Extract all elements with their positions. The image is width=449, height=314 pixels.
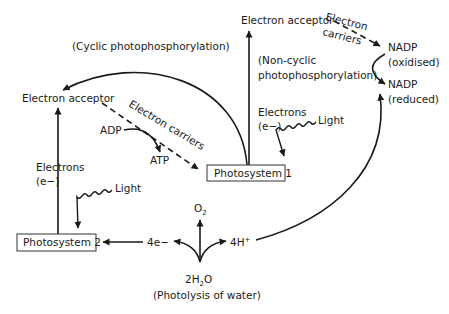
electron-acceptor-left: Electron acceptor	[22, 92, 115, 104]
cyclic-label: (Cyclic photophosphorylation)	[72, 40, 230, 52]
light-wave-ps1-icon	[276, 122, 316, 156]
nadp-reduced-1: NADP	[388, 78, 417, 90]
nadp-oxidised-1: NADP	[388, 41, 417, 53]
light-wave-ps2-icon	[77, 190, 112, 228]
nadp-reduced-2: (reduced)	[388, 93, 439, 105]
4e-label: 4e−	[147, 236, 169, 248]
adp-label: ADP	[100, 124, 122, 136]
electron-acceptor-top: Electron acceptor	[241, 14, 334, 26]
atp-label: ATP	[150, 154, 169, 166]
electrons-ps2-2: (e−)	[36, 175, 59, 187]
noncyclic-label-2: photophosphorylation)	[258, 69, 377, 81]
edge-adp-to-atp	[124, 129, 160, 152]
electrons-ps1-2: (e−)	[258, 120, 281, 132]
carriers-label-left: Electron carriers	[127, 97, 207, 152]
photosynthesis-diagram: Electron acceptor Electron carriers NADP…	[0, 0, 449, 314]
water-label: 2H2O	[185, 273, 212, 288]
edge-water-to-4h	[200, 241, 226, 262]
light-ps2-label: Light	[115, 182, 141, 194]
photosystem-2-label: Photosystem 2	[23, 236, 101, 248]
nadp-oxidised-2: (oxidised)	[388, 56, 440, 68]
electrons-ps2-1: Electrons	[36, 161, 85, 173]
photolysis-label: (Photolysis of water)	[153, 289, 261, 301]
photosystem-1-label: Photosystem 1	[214, 167, 292, 179]
noncyclic-label-1: (Non-cyclic	[258, 54, 316, 66]
electrons-ps1-1: Electrons	[258, 106, 307, 118]
light-ps1-label: Light	[318, 114, 344, 126]
edge-water-to-4e	[174, 241, 200, 262]
4h-label: 4H+	[230, 236, 251, 248]
o2-label: O2	[194, 202, 207, 217]
